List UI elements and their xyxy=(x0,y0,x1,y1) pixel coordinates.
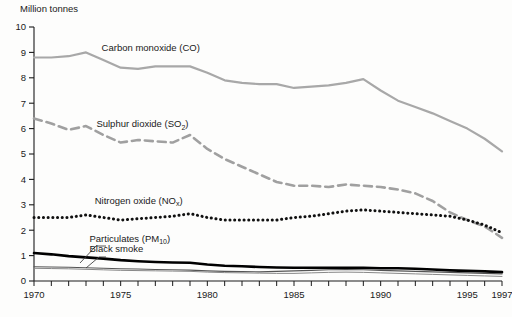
x-tick-label: 1997 xyxy=(491,289,512,300)
series-label: Black smoke xyxy=(89,243,143,254)
series-label: Carbon monoxide (CO) xyxy=(102,42,200,53)
emissions-line-chart: 012345678910 197019751980198519901995199… xyxy=(0,0,512,317)
y-tick-label: 4 xyxy=(21,174,26,185)
chart-canvas: 012345678910 197019751980198519901995199… xyxy=(0,0,512,317)
y-tick-label: 9 xyxy=(21,47,26,58)
x-tick-label: 1975 xyxy=(110,289,131,300)
series-inline-labels: Carbon monoxide (CO)Sulphur dioxide (SO2… xyxy=(89,42,199,254)
y-tick-label: 0 xyxy=(21,275,26,286)
x-tick-label: 1985 xyxy=(283,289,304,300)
x-tick-label: 1970 xyxy=(23,289,44,300)
series-line xyxy=(34,52,502,151)
x-axis-ticks: 1970197519801985199019951997 xyxy=(23,281,512,300)
y-axis-title: Million tonnes xyxy=(20,3,78,14)
y-tick-label: 5 xyxy=(21,148,26,159)
series-line xyxy=(34,253,502,272)
x-tick-label: 1990 xyxy=(370,289,391,300)
series-label: Sulphur dioxide (SO2) xyxy=(96,118,188,130)
series-line xyxy=(34,210,502,233)
y-tick-label: 2 xyxy=(21,225,26,236)
y-axis-ticks: 012345678910 xyxy=(15,21,34,286)
y-tick-label: 6 xyxy=(21,123,26,134)
x-tick-label: 1995 xyxy=(457,289,478,300)
y-tick-label: 8 xyxy=(21,72,26,83)
y-tick-label: 3 xyxy=(21,199,26,210)
y-tick-label: 1 xyxy=(21,250,26,261)
x-tick-label: 1980 xyxy=(197,289,218,300)
series-label: Nitrogen oxide (NOx) xyxy=(95,195,183,207)
y-tick-label: 10 xyxy=(15,21,26,32)
y-tick-label: 7 xyxy=(21,98,26,109)
